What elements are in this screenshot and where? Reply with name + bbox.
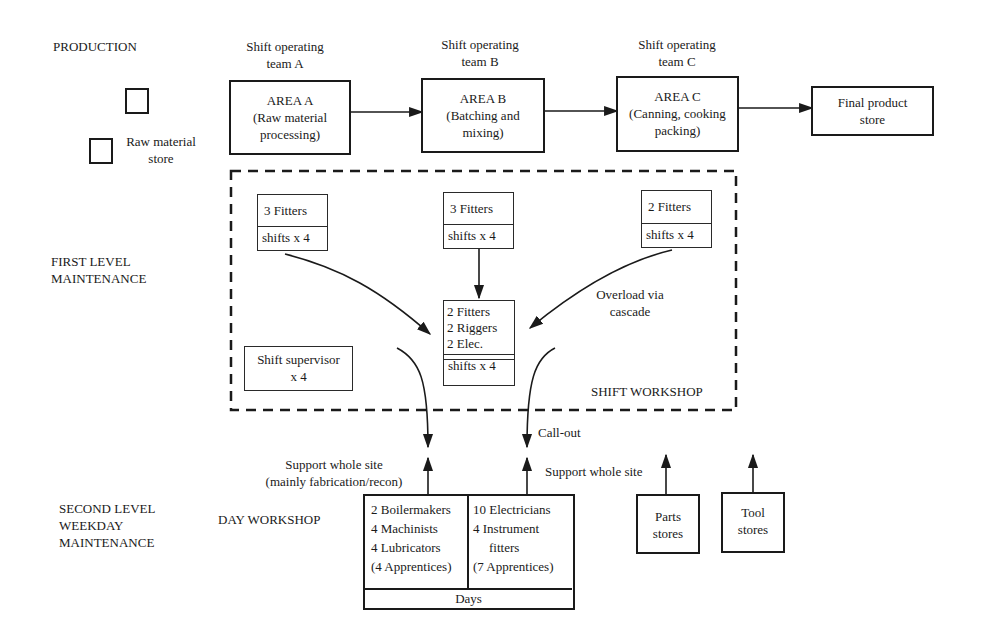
crew-a-count: 3 Fitters [258, 195, 327, 226]
crew-b-box: 3 Fitters shifts x 4 [443, 192, 514, 249]
crew-b-count: 3 Fitters [444, 193, 513, 224]
level-second-label-3: MAINTENANCE [59, 534, 154, 551]
crew-c-shifts: shifts x 4 [642, 223, 711, 245]
arrow-central-to-day-left [397, 348, 428, 447]
area-c-box: AREA C (Canning, cooking packing) [616, 76, 739, 152]
arrow-crew-a-to-central [285, 254, 430, 334]
electrical-trades: 10 Electricians 4 Instrument fitters (7 … [469, 496, 573, 588]
level-production-label: PRODUCTION [53, 38, 137, 55]
raw-material-store-square-lower [89, 138, 113, 164]
day-workshop-title: DAY WORKSHOP [218, 511, 320, 528]
crew-a-box: 3 Fitters shifts x 4 [257, 194, 328, 251]
crew-c-count: 2 Fitters [642, 191, 711, 223]
team-a-label: Shift operating team A [225, 38, 345, 72]
crew-a-shifts: shifts x 4 [258, 226, 327, 248]
day-workshop-box: 2 Boilermakers 4 Machinists 4 Lubricator… [363, 494, 575, 610]
callout-note: Call-out [538, 424, 581, 441]
shift-supervisor-box: Shift supervisor x 4 [244, 346, 353, 391]
crew-c-box: 2 Fitters shifts x 4 [641, 190, 712, 248]
area-a-box: AREA A (Raw material processing) [229, 80, 351, 155]
area-b-box: AREA B (Batching and mixing) [421, 78, 545, 153]
team-c-label: Shift operating team C [617, 36, 737, 70]
tool-stores-box: Tool stores [721, 492, 785, 553]
mechanical-trades: 2 Boilermakers 4 Machinists 4 Lubricator… [365, 496, 469, 588]
crew-b-shifts: shifts x 4 [444, 224, 513, 246]
days-row: Days [365, 588, 572, 609]
level-first-label-2: MAINTENANCE [51, 270, 146, 287]
level-second-label-1: SECOND LEVEL [59, 500, 155, 517]
raw-material-store-label: Raw material store [118, 133, 204, 167]
support-note-right: Support whole site [545, 463, 643, 480]
team-b-label: Shift operating team B [420, 36, 540, 70]
support-note-left: Support whole site (mainly fabrication/r… [244, 456, 424, 490]
overload-note: Overload via cascade [580, 286, 680, 320]
final-product-store-box: Final product store [811, 86, 934, 136]
level-first-label-1: FIRST LEVEL [51, 253, 131, 270]
raw-material-store-square-upper [125, 88, 149, 114]
level-second-label-2: WEEKDAY [59, 517, 124, 534]
parts-stores-box: Parts stores [636, 494, 700, 554]
central-crew-outline [443, 300, 515, 386]
shift-workshop-title: SHIFT WORKSHOP [591, 383, 703, 400]
